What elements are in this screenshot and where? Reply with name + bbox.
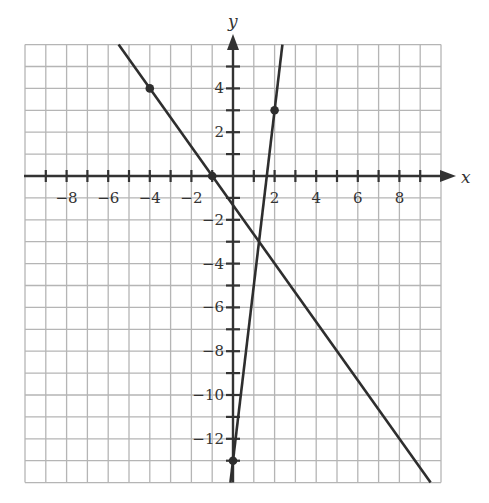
x-tick-label: 6 — [353, 189, 363, 207]
axes — [24, 34, 456, 483]
y-tick-label: −6 — [202, 298, 224, 316]
y-tick-label: 4 — [214, 79, 224, 97]
y-tick-label: −8 — [202, 342, 224, 360]
x-tick-label: 4 — [311, 189, 321, 207]
x-tick-label: 2 — [270, 189, 280, 207]
y-tick-label: −4 — [202, 255, 224, 273]
x-tick-label: −2 — [180, 189, 202, 207]
y-tick-label: 2 — [214, 123, 224, 141]
x-axis-arrow-icon — [440, 170, 456, 182]
y-tick-label: −10 — [192, 386, 224, 404]
data-point — [229, 456, 238, 465]
x-tick-label: −8 — [56, 189, 78, 207]
y-tick-label: −12 — [192, 430, 224, 448]
y-tick-label: −2 — [202, 211, 224, 229]
x-axis-label: x — [461, 167, 471, 187]
y-axis-label: y — [227, 11, 238, 31]
x-tick-label: −4 — [139, 189, 161, 207]
y-axis-arrow-icon — [227, 34, 239, 50]
data-point — [208, 172, 217, 181]
x-tick-label: 8 — [395, 189, 405, 207]
data-point — [146, 84, 155, 93]
data-point — [270, 106, 279, 115]
coordinate-plane-chart: −8−6−4−2246842−2−4−6−8−10−12 x y — [0, 0, 489, 503]
x-tick-label: −6 — [97, 189, 119, 207]
